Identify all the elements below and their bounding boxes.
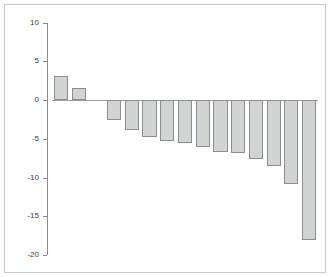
- bar: [142, 100, 156, 137]
- bar: [302, 100, 316, 240]
- bar: [160, 100, 174, 141]
- y-axis-tick-mark: [43, 216, 47, 217]
- bar: [54, 76, 68, 100]
- bar: [107, 100, 121, 120]
- y-axis-tick-label: -5: [11, 134, 39, 143]
- bar: [267, 100, 281, 166]
- y-axis-line: [47, 23, 48, 256]
- y-axis-tick-mark: [43, 100, 47, 101]
- y-axis-tick-mark: [43, 255, 47, 256]
- bar: [178, 100, 192, 143]
- bar: [284, 100, 298, 184]
- y-axis-tick-label: 5: [11, 56, 39, 65]
- y-axis-tick-label: -20: [11, 250, 39, 259]
- y-axis-tick-mark: [43, 178, 47, 179]
- bar: [213, 100, 227, 152]
- bar: [231, 100, 245, 153]
- y-axis-tick-label: 0: [11, 95, 39, 104]
- chart-screenshot: 1050-5-10-15-20: [0, 0, 330, 277]
- y-axis-tick-label: -15: [11, 211, 39, 220]
- y-axis-tick-mark: [43, 23, 47, 24]
- y-axis-tick-label: 10: [11, 18, 39, 27]
- bar: [125, 100, 139, 130]
- y-axis-tick-mark: [43, 139, 47, 140]
- bar: [196, 100, 210, 147]
- plot-area: 1050-5-10-15-20: [0, 0, 330, 277]
- bar: [249, 100, 263, 159]
- y-axis-tick-mark: [43, 61, 47, 62]
- bar: [72, 88, 86, 100]
- y-axis-tick-label: -10: [11, 173, 39, 182]
